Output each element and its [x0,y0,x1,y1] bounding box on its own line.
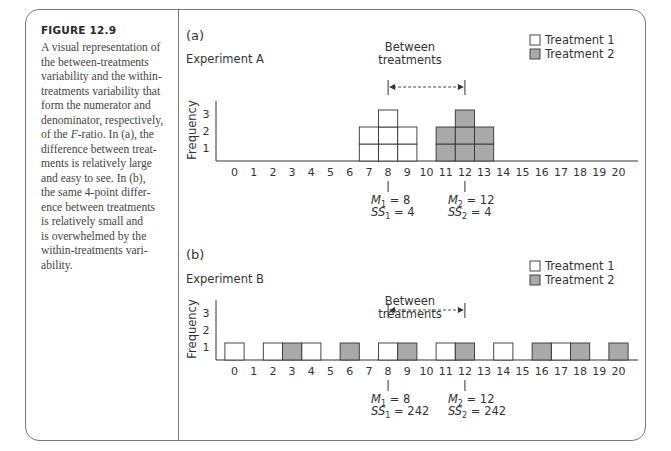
x-tick-label: 4 [308,365,315,378]
panel-a-between-line1: Between [385,40,435,54]
y-axis-label: Frequency [185,299,199,359]
treatment2-box [475,144,494,161]
ss-2-label: SS2 = 4 [448,205,492,221]
panel-a-title: Experiment A [186,52,264,66]
treatment2-box [436,144,455,161]
x-tick-label: 15 [516,166,530,179]
y-tick-label: 2 [203,324,210,337]
treatment1-box [379,144,398,161]
ss-1-label: SS1 = 4 [371,205,415,221]
x-tick-label: 6 [346,365,353,378]
treatment1-box [379,343,398,360]
x-tick-label: 1 [250,365,257,378]
y-tick-label: 1 [203,142,210,155]
treatment2-box [283,343,302,360]
x-tick-label: 13 [477,365,491,378]
between-treatments-bracket [388,80,465,95]
x-tick-label: 9 [404,365,411,378]
x-tick-label: 5 [327,365,334,378]
x-tick-label: 10 [420,166,434,179]
x-tick-label: 6 [346,166,353,179]
x-tick-label: 13 [477,166,491,179]
x-tick-label: 2 [269,365,276,378]
treatment1-legend-swatch [530,35,540,45]
x-tick-label: 8 [385,166,392,179]
x-tick-label: 4 [308,166,315,179]
treatment2-box [455,343,474,360]
treatment1-box [436,343,455,360]
x-tick-label: 0 [231,365,238,378]
x-tick-label: 0 [231,166,238,179]
treatment1-box [398,144,417,161]
x-tick-label: 19 [592,166,606,179]
treatment2-box [455,127,474,144]
legend-label: Treatment 1 [544,259,615,273]
y-axis-label: Frequency [185,100,199,160]
x-tick-label: 18 [573,365,587,378]
x-tick-label: 16 [535,166,549,179]
treatment2-box [455,144,474,161]
x-tick-label: 1 [250,166,257,179]
x-tick-label: 11 [439,166,453,179]
treatment2-box [571,343,590,360]
treatment2-box [398,343,417,360]
x-tick-label: 2 [269,166,276,179]
legend-label: Treatment 1 [544,33,615,47]
figure-charts: (a) Experiment A Between treatments (b) … [0,0,671,451]
x-tick-label: 19 [592,365,606,378]
x-tick-label: 15 [516,365,530,378]
x-tick-label: 18 [573,166,587,179]
x-tick-label: 8 [385,365,392,378]
x-tick-label: 17 [554,365,568,378]
treatment1-box [398,127,417,144]
x-tick-label: 16 [535,365,549,378]
treatment1-box [359,127,378,144]
x-tick-label: 17 [554,166,568,179]
x-tick-label: 7 [365,365,372,378]
ss-2-label: SS2 = 242 [448,404,506,420]
panel-a-label: (a) [186,28,204,43]
treatment2-legend-swatch [530,49,540,59]
treatment1-box [379,127,398,144]
x-tick-label: 20 [612,166,626,179]
x-tick-label: 9 [404,166,411,179]
legend-label: Treatment 2 [544,273,615,287]
x-tick-label: 14 [496,365,510,378]
treatment2-box [436,127,455,144]
treatment1-box [494,343,513,360]
x-tick-label: 10 [420,365,434,378]
treatment1-box [379,110,398,127]
treatment2-box [475,127,494,144]
x-tick-label: 14 [496,166,510,179]
y-tick-label: 3 [203,108,210,121]
treatment1-legend-swatch [530,261,540,271]
y-tick-label: 3 [203,307,210,320]
legend-label: Treatment 2 [544,47,615,61]
treatment1-box [302,343,321,360]
treatment1-box [551,343,570,360]
panel-b-label: (b) [186,247,204,262]
treatment1-box [225,343,244,360]
x-tick-label: 12 [458,166,472,179]
treatment1-box [359,144,378,161]
x-tick-label: 20 [612,365,626,378]
treatment2-legend-swatch [530,275,540,285]
x-tick-label: 11 [439,365,453,378]
ss-1-label: SS1 = 242 [371,404,429,420]
treatment2-box [609,343,628,360]
panel-b-title: Experiment B [186,272,264,286]
x-tick-label: 5 [327,166,334,179]
treatment2-box [340,343,359,360]
x-tick-label: 12 [458,365,472,378]
treatment1-box [263,343,282,360]
y-tick-label: 1 [203,341,210,354]
y-tick-label: 2 [203,125,210,138]
treatment2-box [455,110,474,127]
x-tick-label: 3 [289,166,296,179]
panel-a-between-line2: treatments [378,53,442,67]
x-tick-label: 3 [289,365,296,378]
treatment2-box [532,343,551,360]
x-tick-label: 7 [365,166,372,179]
panel-b-between-line1: Between [385,294,435,308]
